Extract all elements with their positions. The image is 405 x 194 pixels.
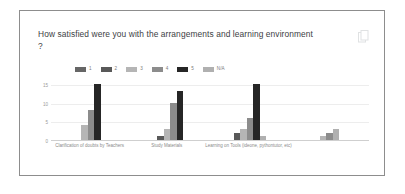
bar[interactable]: [177, 91, 184, 140]
bar[interactable]: [260, 136, 267, 140]
x-label-1: Study Materials: [128, 143, 205, 148]
x-label-0: Clarification of doubts by Teachers: [51, 143, 128, 148]
copy-icon[interactable]: [358, 29, 369, 42]
y-tick-10: 10: [43, 101, 48, 106]
y-tick-5: 5: [45, 120, 48, 125]
bar[interactable]: [333, 129, 340, 140]
legend-item[interactable]: N/A: [203, 67, 225, 72]
axis-baseline: [51, 140, 369, 141]
x-label-2: Learning on Tools (ideone, pythontutor, …: [205, 143, 291, 148]
grouped-bar-chart: 1 2 3 4 5: [34, 67, 372, 167]
legend-label: 5: [191, 67, 194, 72]
bar[interactable]: [94, 84, 101, 140]
survey-question-card: How satisfied were you with the arrangem…: [19, 10, 385, 176]
y-axis: 15 10 5 0: [34, 81, 50, 141]
legend-swatch-5: [177, 67, 188, 72]
legend-item[interactable]: 4: [152, 67, 169, 72]
screenshot-root: How satisfied were you with the arrangem…: [0, 0, 405, 194]
legend-label: N/A: [217, 67, 225, 72]
legend-label: 4: [166, 67, 169, 72]
chart-legend: 1 2 3 4 5: [75, 67, 224, 72]
legend-label: 3: [140, 67, 143, 72]
legend-swatch-na: [203, 67, 214, 72]
bar-groups: [51, 81, 369, 140]
y-tick-0: 0: [45, 139, 48, 144]
bar-group-0: [51, 81, 131, 140]
legend-item[interactable]: 3: [126, 67, 143, 72]
legend-label: 2: [115, 67, 118, 72]
page-title: How satisfied were you with the arrangem…: [38, 28, 318, 52]
legend-item[interactable]: 1: [75, 67, 92, 72]
bar-group-1: [131, 81, 211, 140]
plot-area: 15 10 5 0: [34, 81, 372, 153]
y-tick-15: 15: [43, 82, 48, 87]
legend-swatch-3: [126, 67, 137, 72]
x-axis-labels: Clarification of doubts by Teachers Stud…: [51, 143, 369, 148]
legend-swatch-1: [75, 67, 86, 72]
legend-label: 1: [89, 67, 92, 72]
legend-item[interactable]: 5: [177, 67, 194, 72]
legend-swatch-4: [152, 67, 163, 72]
bar[interactable]: [253, 84, 260, 140]
x-label-3: [292, 143, 369, 148]
grid-area: [51, 81, 369, 141]
legend-item[interactable]: 2: [101, 67, 118, 72]
bar-group-3: [290, 81, 370, 140]
bar-group-2: [210, 81, 290, 140]
legend-swatch-2: [101, 67, 112, 72]
